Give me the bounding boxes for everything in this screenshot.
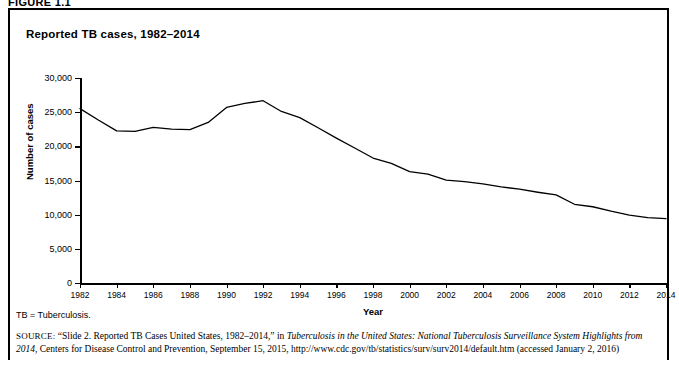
x-tick-label: 1990 (217, 290, 236, 300)
x-tick-label: 1998 (364, 290, 383, 300)
y-tick-label: 5,000 (49, 244, 72, 254)
y-tick-label: 30,000 (44, 73, 72, 83)
source-text-part1: “Slide 2. Reported TB Cases United State… (58, 331, 287, 341)
x-tick-label: 2008 (547, 290, 566, 300)
y-tick-label: 20,000 (44, 141, 72, 151)
abbreviation-note: TB = Tuberculosis. (16, 310, 91, 320)
y-tick-label: 10,000 (44, 210, 72, 220)
x-tick-label: 1996 (327, 290, 346, 300)
data-line-svg (80, 78, 666, 283)
x-tick (410, 283, 411, 288)
x-tick-label: 2010 (583, 290, 602, 300)
x-tick (190, 283, 191, 288)
figure-border: Reported TB cases, 1982–2014 Number of c… (8, 8, 669, 360)
x-tick-label: 2006 (510, 290, 529, 300)
tb-cases-line (80, 101, 666, 219)
x-tick (593, 283, 594, 288)
x-tick (629, 283, 630, 288)
x-tick (666, 283, 667, 288)
x-tick-label: 1994 (290, 290, 309, 300)
figure-label: FIGURE 1.1 (8, 0, 71, 8)
x-tick (117, 283, 118, 288)
source-text-part2: , Centers for Disease Control and Preven… (35, 344, 619, 354)
x-tick-label: 2014 (657, 290, 676, 300)
x-tick (520, 283, 521, 288)
x-tick-label: 2004 (473, 290, 492, 300)
x-tick (80, 283, 81, 288)
source-prefix: SOURCE: (16, 331, 55, 341)
x-tick (153, 283, 154, 288)
y-tick-label: 15,000 (44, 176, 72, 186)
x-tick-label: 2000 (400, 290, 419, 300)
plot-area: 05,00010,00015,00020,00025,00030,000 198… (80, 78, 666, 283)
source-note: SOURCE: “Slide 2. Reported TB Cases Unit… (16, 330, 646, 356)
x-axis-title: Year (80, 306, 666, 317)
y-tick-label: 0 (67, 278, 72, 288)
x-tick (483, 283, 484, 288)
x-tick-label: 2002 (437, 290, 456, 300)
x-tick-label: 1992 (254, 290, 273, 300)
x-tick-label: 1984 (107, 290, 126, 300)
x-tick (446, 283, 447, 288)
x-tick (300, 283, 301, 288)
x-tick-label: 1986 (144, 290, 163, 300)
x-tick-label: 2012 (620, 290, 639, 300)
x-tick (227, 283, 228, 288)
x-tick-label: 1988 (180, 290, 199, 300)
x-tick (556, 283, 557, 288)
x-tick (336, 283, 337, 288)
x-tick-label: 1982 (71, 290, 90, 300)
y-axis-title: Number of cases (24, 103, 35, 180)
chart-title: Reported TB cases, 1982–2014 (26, 28, 200, 40)
y-tick-label: 25,000 (44, 107, 72, 117)
x-tick (263, 283, 264, 288)
x-tick (373, 283, 374, 288)
